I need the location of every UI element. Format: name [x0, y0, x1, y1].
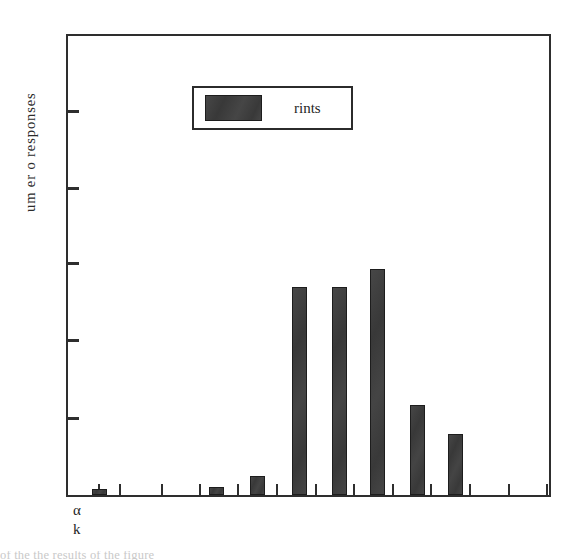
x-axis-tick: [276, 484, 278, 495]
legend-swatch-rints: [205, 95, 262, 121]
y-axis-tick: [68, 262, 79, 265]
x-axis-tick: [237, 484, 239, 495]
x-axis-tick: [161, 484, 163, 495]
x-axis-tick: [430, 484, 432, 495]
x-axis-tick: [315, 484, 317, 495]
x-axis-tick: [353, 484, 355, 495]
figure-canvas: um er o responses rints α k o: [0, 0, 579, 560]
bar: [410, 405, 425, 495]
x-axis-tick: [392, 484, 394, 495]
x-axis-tick: [508, 484, 510, 495]
legend: rints: [192, 86, 353, 130]
clipped-caption-text: of the the results of the figure: [0, 551, 579, 560]
bar: [250, 476, 265, 495]
bar: [370, 269, 385, 495]
bar: [332, 287, 347, 495]
x-axis-tick: [119, 484, 121, 495]
legend-label-rints: rints: [294, 100, 321, 117]
clipped-caption: of the the results of the figure: [0, 551, 579, 560]
x-axis-tick: [546, 484, 548, 495]
bar: [92, 489, 107, 495]
bar: [448, 434, 463, 495]
x-axis-tick: [199, 484, 201, 495]
x-axis-tick: [469, 484, 471, 495]
axis-glyph-alpha: α: [73, 502, 81, 519]
bar: [292, 287, 307, 495]
axis-glyph-k: k: [73, 521, 81, 538]
y-axis-tick: [68, 417, 79, 420]
plot-area: rints: [66, 34, 551, 497]
bar: [209, 487, 224, 495]
y-axis-tick: [68, 339, 79, 342]
y-axis-tick: [68, 187, 79, 190]
y-axis-tick: [68, 110, 79, 113]
y-axis-label: um er o responses: [22, 12, 44, 212]
